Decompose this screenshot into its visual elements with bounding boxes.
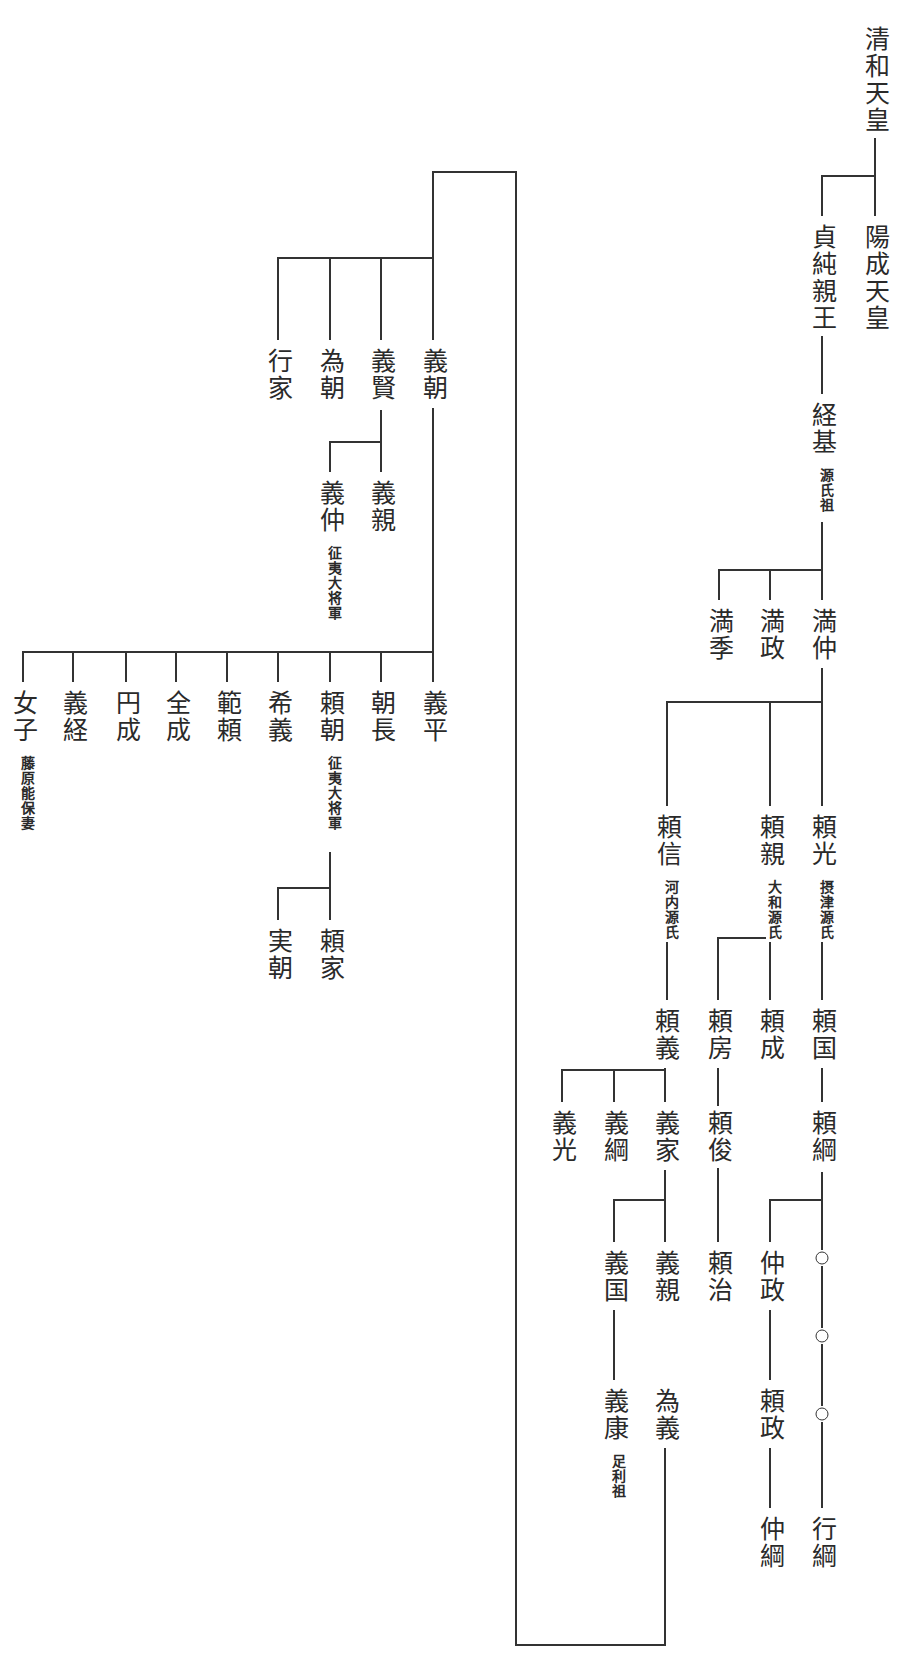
person-node-yoshimitsu: 義光 xyxy=(549,1106,575,1168)
person-node-tomonaga: 朝長 xyxy=(368,686,394,748)
person-node-tameyoshi: 為義 xyxy=(652,1384,678,1446)
person-node-tametomo: 為朝 xyxy=(317,344,343,406)
person-node-yorichika: 頼親 xyxy=(757,810,783,872)
connector-line xyxy=(433,172,665,1645)
person-node-yoshiyasu: 義康 xyxy=(601,1384,627,1446)
person-node-yoshitomo: 義朝 xyxy=(420,344,446,406)
person-node-yoshinaka: 義仲 xyxy=(317,476,343,538)
person-node-mareyoshi: 希義 xyxy=(265,686,291,748)
person-node-yorifusa: 頼房 xyxy=(705,1004,731,1066)
person-node-yukiie: 行家 xyxy=(265,344,291,406)
person-node-mitsusue: 満季 xyxy=(706,604,732,666)
person-node-nakamasa: 仲政 xyxy=(757,1246,783,1308)
person-node-zenjo: 全成 xyxy=(163,686,189,748)
unknown-person-circle-icon xyxy=(816,1252,829,1265)
person-node-yorikuni: 頼国 xyxy=(809,1004,835,1066)
person-node-yoshihira: 義平 xyxy=(420,686,446,748)
person-note-tsunemoto: 源氏祖 xyxy=(818,466,833,515)
connector-line xyxy=(667,702,822,806)
connector-line xyxy=(822,176,875,216)
person-node-yoriharu: 頼治 xyxy=(705,1246,731,1308)
person-node-yoshichika: 義親 xyxy=(652,1246,678,1308)
connector-line xyxy=(614,1200,665,1242)
person-node-yorimitsu: 頼光 xyxy=(809,810,835,872)
person-node-yoriie: 頼家 xyxy=(317,924,343,986)
person-node-sanetomo: 実朝 xyxy=(265,924,291,986)
person-note-yorichika: 大和源氏 xyxy=(766,878,781,942)
person-node-yoritsuna: 頼綱 xyxy=(809,1106,835,1168)
person-note-yoshinaka: 征夷大将軍 xyxy=(326,544,341,623)
person-node-yoritoshi: 頼俊 xyxy=(705,1106,731,1168)
connector-line xyxy=(278,258,433,340)
unknown-person-circle-icon xyxy=(816,1408,829,1421)
person-note-nyoshi: 藤原能保妻 xyxy=(19,754,34,833)
person-node-yoshichika2: 義親 xyxy=(368,476,394,538)
person-node-yozei: 陽成天皇 xyxy=(862,220,888,336)
person-node-yoshitsuna: 義綱 xyxy=(601,1106,627,1168)
person-node-nakatsuna: 仲綱 xyxy=(757,1512,783,1574)
person-note-yoshiyasu: 足利祖 xyxy=(610,1452,625,1501)
unknown-person-circle-icon xyxy=(816,1330,829,1343)
person-node-mitsumasa: 満政 xyxy=(757,604,783,666)
genealogy-diagram: 清和天皇陽成天皇貞純親王経基源氏祖満仲満政満季頼光摂津源氏頼親大和源氏頼信河内源… xyxy=(0,0,914,1660)
connector-line xyxy=(330,442,381,472)
connector-line xyxy=(718,938,770,1000)
connector-line xyxy=(278,888,330,920)
person-node-noriyori: 範頼 xyxy=(214,686,240,748)
person-note-yoritomo: 征夷大将軍 xyxy=(326,754,341,833)
person-node-yorimasa: 頼政 xyxy=(757,1384,783,1446)
person-node-yukitsuna: 行綱 xyxy=(809,1512,835,1574)
person-node-sadazumi: 貞純親王 xyxy=(809,220,835,336)
person-node-yoshiie: 義家 xyxy=(652,1106,678,1168)
person-node-nyoshi: 女子 xyxy=(10,686,36,748)
person-node-yorinari: 頼成 xyxy=(757,1004,783,1066)
person-note-yorinobu: 河内源氏 xyxy=(663,878,678,942)
person-node-yoshikuni: 義国 xyxy=(601,1246,627,1308)
person-node-yoshitsune: 義経 xyxy=(60,686,86,748)
person-node-yoriyoshi: 頼義 xyxy=(652,1004,678,1066)
person-node-tsunemoto: 経基 xyxy=(809,398,835,460)
person-node-yoshikata: 義賢 xyxy=(368,344,394,406)
person-node-mitsunaka: 満仲 xyxy=(809,604,835,666)
person-node-seiwa: 清和天皇 xyxy=(862,22,888,138)
person-node-yoritomo: 頼朝 xyxy=(317,686,343,748)
person-note-yorimitsu: 摂津源氏 xyxy=(818,878,833,942)
person-node-yorinobu: 頼信 xyxy=(654,810,680,872)
person-node-enjo: 円成 xyxy=(113,686,139,748)
connector-line xyxy=(770,1200,822,1242)
